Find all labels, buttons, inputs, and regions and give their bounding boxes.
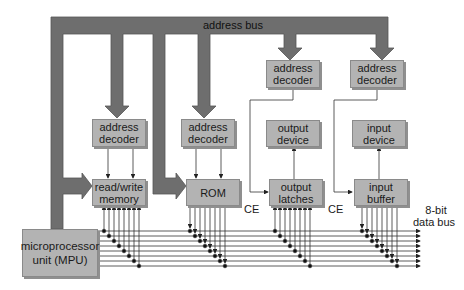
- ce-label-output: CE: [244, 203, 264, 215]
- input-buffer: input buffer: [354, 179, 408, 206]
- ram-address-decoder: address decoder: [92, 119, 146, 147]
- output-latches: output latches: [269, 179, 323, 206]
- output-address-decoder: address decoder: [266, 60, 320, 88]
- rom: ROM: [186, 179, 240, 206]
- address-bus-label: address bus: [203, 19, 283, 31]
- input-address-decoder: address decoder: [350, 60, 404, 88]
- ce-label-input: CE: [328, 203, 348, 215]
- microprocessor-unit: microprocessor unit (MPU): [22, 229, 98, 277]
- data-bus-label-2: data bus: [404, 216, 464, 228]
- data-bus-label-1: 8-bit: [408, 204, 464, 216]
- read-write-memory: read/write memory: [92, 179, 146, 206]
- rom-address-decoder: address decoder: [181, 119, 235, 147]
- input-device: input device: [352, 120, 406, 147]
- output-device: output device: [266, 120, 320, 147]
